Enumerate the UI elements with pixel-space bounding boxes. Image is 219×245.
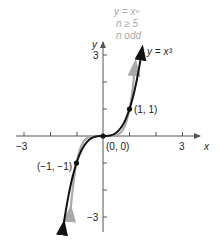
point-neg-label: (−1, −1) xyxy=(37,161,72,172)
y-max-label: 3 xyxy=(93,50,99,61)
y-axis-label: y xyxy=(91,39,98,50)
point-origin xyxy=(100,133,105,138)
x-max-label: 3 xyxy=(179,141,185,152)
legend-line-3: n odd xyxy=(116,30,141,41)
y-min-label: −3 xyxy=(87,212,99,223)
x-min-label: −3 xyxy=(16,141,28,152)
point-origin-label: (0, 0) xyxy=(106,141,129,152)
point-one-label: (1, 1) xyxy=(134,104,157,115)
curve-x-cubed-label: y = x³ xyxy=(146,46,172,57)
point-one xyxy=(127,106,132,111)
legend-line-2: n ≥ 5 xyxy=(116,18,139,29)
chart-canvas: −3 3 x y 3 −3 (0, 0) (1, 1) (−1, −1) y =… xyxy=(0,0,219,245)
legend-line-1: y = xⁿ xyxy=(113,6,139,17)
x-axis-label: x xyxy=(203,141,210,152)
point-neg-one xyxy=(74,160,79,165)
